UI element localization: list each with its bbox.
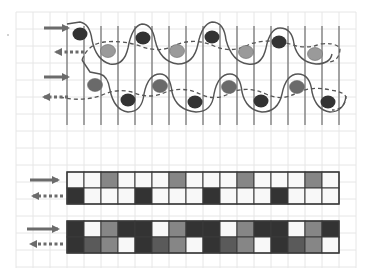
pattern-cell (305, 221, 322, 237)
pattern-cell (169, 188, 186, 204)
dark-yarn-dot (254, 95, 269, 108)
pattern-cell (305, 172, 322, 188)
gray-yarn-dot (170, 45, 185, 58)
pattern-cell (237, 188, 254, 204)
pattern-cell (118, 188, 135, 204)
pattern-cell (271, 172, 288, 188)
pattern-cell (203, 221, 220, 237)
dark-yarn-dot (121, 94, 136, 107)
pattern-cell (186, 188, 203, 204)
gray-yarn-dot (101, 45, 116, 58)
pattern-cell (322, 221, 339, 237)
gray-yarn-dot (239, 46, 254, 59)
pattern-cell (152, 188, 169, 204)
pattern-cell (322, 188, 339, 204)
pattern-cell (186, 221, 203, 237)
pattern-cell (101, 172, 118, 188)
pattern-cell (254, 172, 271, 188)
pattern-cell (67, 221, 84, 237)
pattern-cell (305, 237, 322, 253)
pattern-cell (152, 237, 169, 253)
gray-yarn-dot (308, 48, 323, 61)
dark-yarn-dot (321, 96, 336, 109)
pattern-cell (288, 188, 305, 204)
weave-diagram (0, 0, 370, 279)
pattern-cell (135, 237, 152, 253)
pattern-cell (288, 237, 305, 253)
pattern-cell (169, 237, 186, 253)
gray-yarn-dot (153, 80, 168, 93)
diagram-canvas (0, 0, 370, 279)
pattern-cell (169, 172, 186, 188)
pattern-cell (237, 172, 254, 188)
pattern-cell (135, 221, 152, 237)
pattern-cell (118, 172, 135, 188)
dark-yarn-dot (73, 28, 88, 41)
dark-yarn-dot (272, 36, 287, 49)
pattern-cell (135, 172, 152, 188)
direction-arrows (27, 28, 84, 244)
pattern-cell (67, 172, 84, 188)
pattern-cell (288, 221, 305, 237)
pattern-cell (322, 172, 339, 188)
pattern-cell (135, 188, 152, 204)
stray-dot (7, 34, 9, 36)
pattern-cell (271, 237, 288, 253)
pattern-cell (84, 221, 101, 237)
gray-yarn-dot (290, 81, 305, 94)
warp-lines (67, 26, 339, 125)
pattern-cell (237, 237, 254, 253)
pattern-cell (101, 237, 118, 253)
pattern-cell (220, 221, 237, 237)
pattern-cell (186, 237, 203, 253)
weft-solid-top (67, 22, 332, 64)
pattern-cell (220, 172, 237, 188)
pattern-cell (203, 237, 220, 253)
weft-dashed-top (82, 41, 340, 62)
pattern-cell (203, 172, 220, 188)
dark-yarn-dot (205, 31, 220, 44)
pattern-cell (152, 172, 169, 188)
pattern-cell (186, 172, 203, 188)
dark-yarn-dot (188, 96, 203, 109)
pattern-cell (220, 237, 237, 253)
pattern-cell (84, 188, 101, 204)
pattern-cell (288, 172, 305, 188)
dense-pattern-grid (67, 221, 339, 253)
pattern-cell (322, 237, 339, 253)
gray-yarn-dot (88, 79, 103, 92)
pattern-cell (254, 221, 271, 237)
pattern-cell (271, 188, 288, 204)
pattern-cell (203, 188, 220, 204)
pattern-cell (237, 221, 254, 237)
pattern-cell (67, 237, 84, 253)
pattern-cell (67, 188, 84, 204)
pattern-cell (118, 237, 135, 253)
pattern-cell (220, 188, 237, 204)
pattern-cell (254, 188, 271, 204)
pattern-cell (101, 188, 118, 204)
weft-solid-bottom (82, 60, 346, 112)
plain-pattern-grid (67, 172, 339, 204)
pattern-cell (84, 172, 101, 188)
gray-yarn-dot (222, 81, 237, 94)
pattern-cell (271, 221, 288, 237)
pattern-cell (118, 221, 135, 237)
pattern-cell (169, 221, 186, 237)
pattern-cell (152, 221, 169, 237)
pattern-cell (101, 221, 118, 237)
dark-yarn-dot (136, 32, 151, 45)
pattern-cell (84, 237, 101, 253)
pattern-cell (305, 188, 322, 204)
pattern-cell (254, 237, 271, 253)
